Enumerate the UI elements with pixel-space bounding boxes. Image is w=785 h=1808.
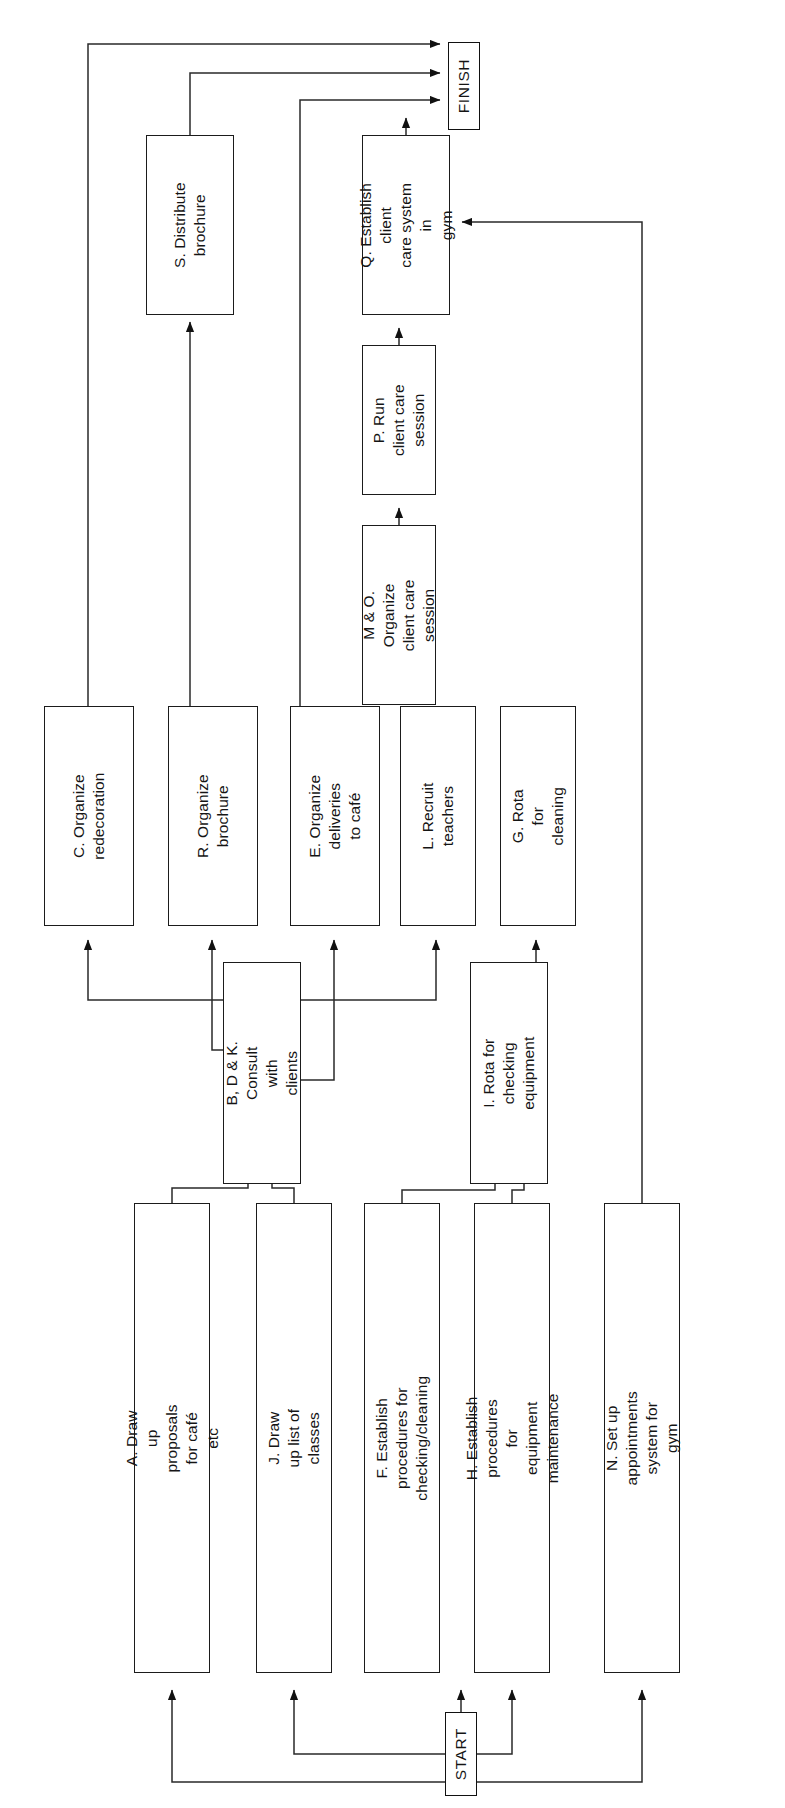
edge-start-to-H (477, 1690, 512, 1754)
node-r-label: R. Organize brochure (193, 774, 233, 858)
node-bdk-consult-with-clients[interactable]: B, D & K. Consult with clients (223, 962, 301, 1184)
node-mo-label: M & O. Organize client care session (359, 579, 440, 651)
node-n-set-up-appointments-system[interactable]: N. Set up appointments system for gym (604, 1203, 680, 1673)
node-bdk-label: B, D & K. Consult with clients (222, 1035, 303, 1111)
node-finish-label: FINISH (454, 59, 474, 113)
node-f-label: F. Establish procedures for checking/cle… (372, 1376, 432, 1501)
node-start[interactable]: START (445, 1712, 477, 1796)
node-i-rota-for-checking-equipment[interactable]: I. Rota for checking equipment (470, 962, 548, 1184)
node-g-label: G. Rota for cleaning (508, 779, 568, 853)
node-e-organize-deliveries-to-cafe[interactable]: E. Organize deliveries to café (290, 706, 380, 926)
node-start-label: START (451, 1728, 471, 1780)
edge-BDK-to-L (301, 940, 436, 1000)
edge-start-to-A (172, 1690, 445, 1782)
edge-BDK-to-R (212, 940, 223, 1050)
node-p-label: P. Run client care session (369, 384, 429, 456)
node-l-label: L. Recruit teachers (418, 779, 458, 853)
node-j-label: J. Draw up list of classes (264, 1401, 324, 1475)
node-s-label: S. Distribute brochure (170, 182, 210, 268)
node-finish[interactable]: FINISH (448, 42, 480, 130)
edge-S-to-FINISH (190, 73, 440, 135)
flowchart-canvas: FINISH S. Distribute brochure Q. Establi… (0, 0, 785, 1808)
edge-start-to-J (294, 1690, 445, 1754)
node-s-distribute-brochure[interactable]: S. Distribute brochure (146, 135, 234, 315)
node-n-label: N. Set up appointments system for gym (602, 1391, 683, 1485)
node-i-label: I. Rota for checking equipment (479, 1035, 539, 1111)
node-c-organize-redecoration[interactable]: C. Organize redecoration (44, 706, 134, 926)
node-f-establish-procedures-checking-cleaning[interactable]: F. Establish procedures for checking/cle… (364, 1203, 440, 1673)
node-mo-organize-client-care-session[interactable]: M & O. Organize client care session (362, 525, 436, 705)
node-e-label: E. Organize deliveries to café (305, 772, 365, 860)
node-r-organize-brochure[interactable]: R. Organize brochure (168, 706, 258, 926)
node-c-label: C. Organize redecoration (69, 772, 109, 859)
edge-BDK-to-C (88, 940, 223, 1000)
node-g-rota-for-cleaning[interactable]: G. Rota for cleaning (500, 706, 576, 926)
node-q-establish-client-care-system[interactable]: Q. Establish client care system in gym (362, 135, 450, 315)
node-a-label: A. Draw up proposals for café etc (122, 1401, 223, 1475)
node-a-draw-up-proposals[interactable]: A. Draw up proposals for café etc (134, 1203, 210, 1673)
node-h-establish-procedures-equipment-maintenance[interactable]: H. Establish procedures for equipment ma… (474, 1203, 550, 1673)
node-l-recruit-teachers[interactable]: L. Recruit teachers (400, 706, 476, 926)
node-q-label: Q. Establish client care system in gym (356, 182, 457, 268)
edge-start-to-N (477, 1690, 642, 1782)
node-j-draw-up-list-of-classes[interactable]: J. Draw up list of classes (256, 1203, 332, 1673)
node-p-run-client-care-session[interactable]: P. Run client care session (362, 345, 436, 495)
node-h-label: H. Establish procedures for equipment ma… (462, 1393, 563, 1483)
